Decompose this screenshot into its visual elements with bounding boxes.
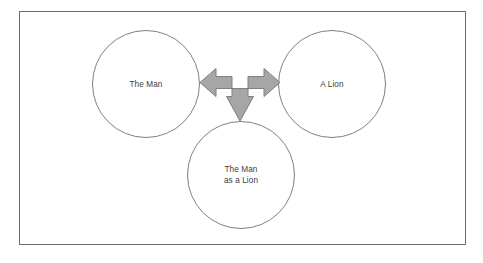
diagram-canvas: The Man A Lion The Man as a Lion xyxy=(0,0,483,263)
node-circle-a-lion[interactable]: A Lion xyxy=(278,30,386,138)
node-circle-the-man[interactable]: The Man xyxy=(92,30,200,138)
node-label-a-lion: A Lion xyxy=(320,79,343,90)
node-label-the-man-as-a-lion: The Man as a Lion xyxy=(224,164,258,186)
node-circle-the-man-as-a-lion[interactable]: The Man as a Lion xyxy=(187,121,295,229)
node-label-the-man: The Man xyxy=(129,79,162,90)
